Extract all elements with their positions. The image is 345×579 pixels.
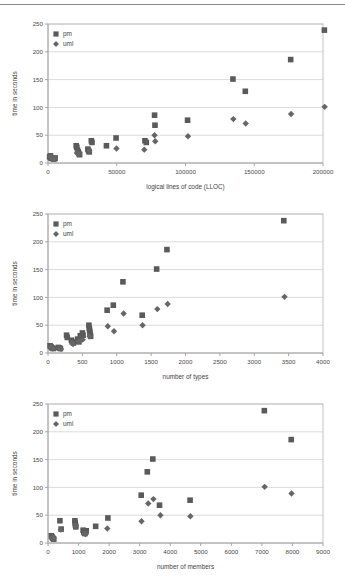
data-point-uml xyxy=(152,138,158,144)
legend-marker-uml xyxy=(53,231,59,237)
data-point-pm xyxy=(111,302,117,308)
data-point-uml xyxy=(139,322,145,328)
legend-label: pm xyxy=(63,410,72,418)
x-tick-label: 2500 xyxy=(213,358,227,365)
y-axis-title: time in seconds xyxy=(11,451,18,495)
y-tick-label: 200 xyxy=(33,428,44,435)
x-tick-label: 9000 xyxy=(316,548,330,555)
axes xyxy=(48,404,323,543)
y-tick-label: 50 xyxy=(36,131,43,138)
data-point-pm xyxy=(144,140,150,146)
x-tick-label: 100000 xyxy=(175,168,196,175)
legend-marker-pm xyxy=(53,31,58,36)
data-point-pm xyxy=(89,140,95,146)
gridlines xyxy=(48,214,323,325)
data-point-pm xyxy=(281,218,287,224)
data-point-pm xyxy=(104,143,110,149)
data-point-uml xyxy=(138,518,144,524)
legend-marker-uml xyxy=(53,421,59,427)
legend: pmuml xyxy=(53,410,73,427)
y-axis-title: time in seconds xyxy=(11,261,18,305)
legend-marker-pm xyxy=(53,221,58,226)
y-tick-label: 200 xyxy=(33,48,44,55)
data-point-uml xyxy=(321,104,327,110)
y-tick-label: 0 xyxy=(40,349,44,356)
x-tick-label: 1500 xyxy=(144,358,158,365)
data-point-uml xyxy=(261,484,267,490)
data-point-uml xyxy=(288,490,294,496)
legend-marker-uml xyxy=(53,41,59,47)
data-point-pm xyxy=(152,122,158,128)
x-tick-label: 500 xyxy=(77,358,88,365)
series-pm xyxy=(47,27,327,162)
data-point-pm xyxy=(150,456,156,462)
data-point-uml xyxy=(104,525,110,531)
y-tick-label: 150 xyxy=(33,76,44,83)
y-tick-label: 150 xyxy=(33,456,44,463)
x-tick-label: 7000 xyxy=(255,548,269,555)
y-tick-label: 200 xyxy=(33,238,44,245)
data-point-pm xyxy=(164,247,170,253)
y-axis-ticks: 050100150200250 xyxy=(33,210,48,356)
series-pm xyxy=(47,218,286,351)
y-axis-title: time in seconds xyxy=(11,71,18,115)
chart-members: 0501001502002500100020003000400050006000… xyxy=(0,388,345,578)
data-point-uml xyxy=(154,306,160,312)
x-tick-label: 200000 xyxy=(313,168,334,175)
x-tick-label: 3000 xyxy=(133,548,147,555)
data-point-pm xyxy=(145,469,151,475)
data-point-pm xyxy=(113,135,119,141)
y-tick-label: 250 xyxy=(33,20,44,27)
series-pm xyxy=(49,408,294,542)
plot-area xyxy=(48,404,323,543)
chart-types: 0501001502002500500100015002000250030003… xyxy=(0,198,345,388)
y-tick-label: 250 xyxy=(33,210,44,217)
y-tick-label: 50 xyxy=(36,511,43,518)
data-point-uml xyxy=(111,328,117,334)
x-tick-label: 1000 xyxy=(72,548,86,555)
chart-lloc: 050100150200250050000100000150000200000l… xyxy=(0,8,345,198)
x-axis-ticks: 05001000150020002500300035004000 xyxy=(46,353,330,365)
data-point-uml xyxy=(187,513,193,519)
y-tick-label: 50 xyxy=(36,321,43,328)
data-point-uml xyxy=(243,120,249,126)
x-tick-label: 0 xyxy=(46,358,50,365)
legend-label: pm xyxy=(63,220,72,228)
data-point-pm xyxy=(322,27,328,33)
data-point-uml xyxy=(151,132,157,138)
data-point-pm xyxy=(288,437,294,443)
legend-label: uml xyxy=(63,230,73,237)
legend: pmuml xyxy=(53,30,73,47)
data-point-uml xyxy=(281,294,287,300)
y-axis-ticks: 050100150200250 xyxy=(33,20,48,166)
y-tick-label: 150 xyxy=(33,266,44,273)
data-point-uml xyxy=(141,146,147,152)
x-axis-title: number of types xyxy=(163,373,209,381)
plot-canvas: 0501001502002500500100015002000250030003… xyxy=(0,198,345,388)
data-point-uml xyxy=(120,310,126,316)
data-point-pm xyxy=(120,279,126,285)
series-uml xyxy=(48,294,288,353)
data-point-pm xyxy=(139,312,145,318)
x-tick-label: 4000 xyxy=(316,358,330,365)
gridlines xyxy=(48,404,323,515)
data-point-uml xyxy=(105,323,111,329)
x-tick-label: 3500 xyxy=(282,358,296,365)
x-tick-label: 2000 xyxy=(179,358,193,365)
x-tick-label: 0 xyxy=(46,168,50,175)
data-point-uml xyxy=(113,145,119,151)
data-point-pm xyxy=(105,515,111,521)
x-axis-title: logical lines of code (LLOC) xyxy=(146,183,225,191)
data-point-pm xyxy=(288,57,294,63)
data-point-pm xyxy=(243,88,249,94)
data-point-pm xyxy=(138,492,144,498)
top-rule xyxy=(0,4,345,5)
x-tick-label: 5000 xyxy=(194,548,208,555)
y-axis-ticks: 050100150200250 xyxy=(33,400,48,546)
x-tick-label: 6000 xyxy=(224,548,238,555)
x-tick-label: 3000 xyxy=(247,358,261,365)
y-tick-label: 0 xyxy=(40,159,44,166)
series-uml xyxy=(49,484,295,542)
data-point-pm xyxy=(262,408,268,414)
data-point-uml xyxy=(288,111,294,117)
